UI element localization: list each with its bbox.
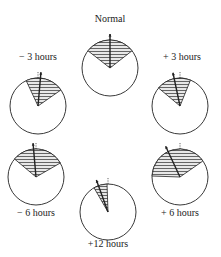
arrowhead-icon xyxy=(109,34,112,37)
hatched-sector xyxy=(15,149,61,177)
panel-minus6 xyxy=(8,142,64,205)
arrowhead-icon xyxy=(32,143,35,146)
panel-label-minus6: − 6 hours xyxy=(17,207,55,218)
panel-label-normal: Normal xyxy=(95,13,126,24)
panel-label-plus3: + 3 hours xyxy=(163,51,201,62)
panel-label-plus6: + 6 hours xyxy=(161,207,199,218)
hatched-sector xyxy=(26,78,61,106)
arrowhead-icon xyxy=(39,72,42,75)
panel-plus3 xyxy=(152,71,208,134)
panel-minus3 xyxy=(10,71,66,134)
panel-plus6 xyxy=(152,142,208,205)
panel-label-minus3: − 3 hours xyxy=(19,51,57,62)
panel-label-plus12: +12 hours xyxy=(88,238,128,249)
panel-plus12 xyxy=(80,177,136,240)
panel-normal xyxy=(82,33,138,96)
phase-diagram xyxy=(0,0,221,257)
